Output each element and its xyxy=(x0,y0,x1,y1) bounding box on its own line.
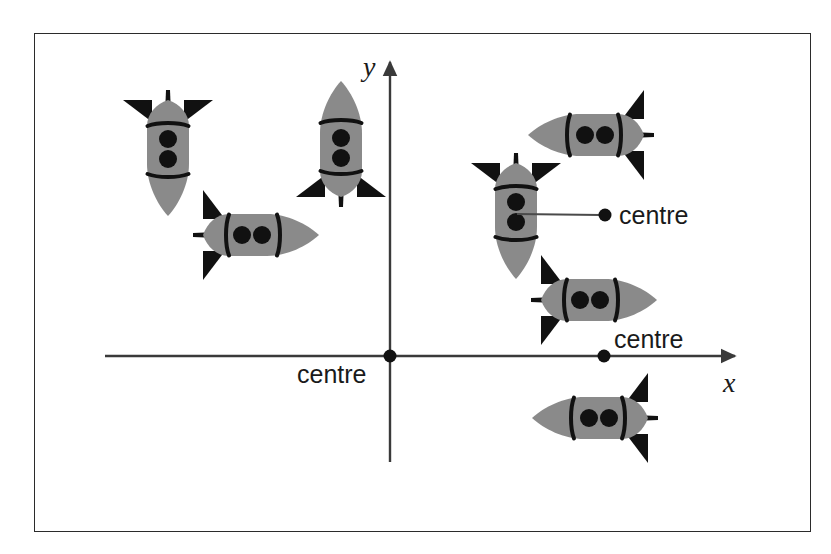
figure-page: x y centrecentrecentre xyxy=(0,0,831,554)
centre-label: centre xyxy=(614,325,683,353)
centre-label: centre xyxy=(619,201,688,229)
x-axis-label: x xyxy=(722,367,736,398)
rocket-upright-near-y-axis xyxy=(296,81,386,207)
centre-leader-line xyxy=(517,214,601,215)
centre-marker-rocket: centre xyxy=(517,201,688,229)
centre-label: centre xyxy=(297,360,366,388)
rocket-top-left-inverted xyxy=(123,90,213,216)
centre-dot xyxy=(384,350,397,363)
centre-dot xyxy=(599,209,612,222)
rocket-bottom-right-pointing-left xyxy=(532,373,658,463)
coordinate-figure: x y centrecentrecentre xyxy=(0,0,831,554)
y-axis-label: y xyxy=(360,51,376,82)
centre-dot xyxy=(598,350,611,363)
rocket-left-pointing-right xyxy=(193,190,319,280)
rocket-centre-labelled-inverted xyxy=(471,153,561,279)
